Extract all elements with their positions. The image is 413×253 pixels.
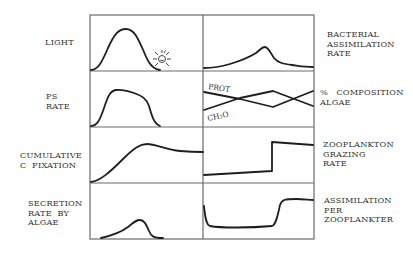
curve-light bbox=[91, 29, 160, 70]
diagram-grid: PROT CH₂O bbox=[0, 0, 413, 253]
label-prot: PROT bbox=[208, 82, 231, 94]
curve-ps-rate bbox=[91, 90, 160, 126]
label-ch2o: CH₂O bbox=[207, 110, 230, 123]
curve-cumulative-c-fixation bbox=[91, 144, 203, 182]
line-ch2o bbox=[204, 91, 313, 110]
curve-zooplankton-grazing bbox=[204, 142, 313, 175]
curve-assimilation-per-zooplankter bbox=[204, 199, 313, 228]
sun-icon bbox=[153, 50, 171, 66]
curve-bacterial-assimilation bbox=[204, 47, 313, 68]
curve-secretion-rate bbox=[101, 220, 163, 238]
